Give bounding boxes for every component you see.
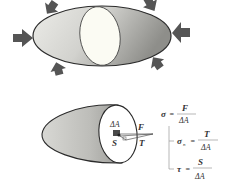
- formula-sigma-n: σ n = T ΔA: [177, 129, 218, 152]
- svg-text:ΔA: ΔA: [194, 172, 205, 181]
- formula-bracket: [169, 126, 174, 169]
- label-S: S: [112, 138, 117, 148]
- svg-text:=: =: [169, 110, 174, 119]
- stress-diagram: ΔA F S T σ = F ΔA σ n = T ΔA τ = S: [0, 0, 228, 190]
- svg-text:T: T: [204, 129, 210, 139]
- stress-formulas: σ = F ΔA σ n = T ΔA τ = S ΔA: [161, 103, 218, 181]
- label-delta-a: ΔA: [109, 120, 120, 129]
- svg-text:ΔA: ΔA: [178, 116, 189, 125]
- svg-text:n: n: [183, 142, 186, 147]
- svg-text:=: =: [185, 165, 190, 174]
- svg-text:F: F: [181, 103, 188, 113]
- arrow-bottom-left-icon: [48, 60, 67, 77]
- arrow-right-icon: [172, 22, 190, 43]
- sectioned-body: ΔA F S T: [42, 103, 153, 165]
- svg-text:ΔA: ΔA: [200, 143, 211, 152]
- formula-sigma: σ = F ΔA: [161, 103, 196, 125]
- loaded-body: [33, 4, 171, 68]
- svg-text:S: S: [198, 157, 203, 167]
- svg-text:σ: σ: [161, 109, 167, 119]
- label-F: F: [137, 122, 144, 132]
- formula-tau: τ = S ΔA: [177, 157, 212, 181]
- arrow-left-icon: [13, 29, 33, 47]
- label-T: T: [139, 138, 145, 148]
- svg-text:τ: τ: [177, 164, 182, 174]
- svg-text:=: =: [190, 137, 195, 146]
